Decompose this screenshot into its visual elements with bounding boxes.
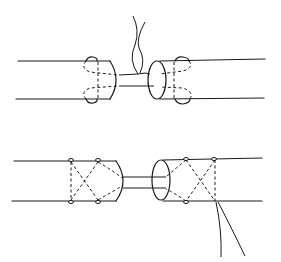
right-stitches-top	[160, 57, 191, 104]
left-stitches-bottom	[69, 159, 123, 204]
left-tube-top	[16, 61, 116, 99]
suture-diagram	[0, 0, 281, 262]
right-tube-top	[148, 59, 265, 99]
threads-bottom	[123, 177, 245, 257]
figure-bottom	[12, 158, 262, 258]
left-stitches-top	[84, 57, 118, 103]
figure-top	[16, 16, 265, 104]
right-tube-bottom	[152, 158, 262, 201]
right-stitches-bottom	[166, 158, 217, 204]
left-tube-bottom	[12, 161, 123, 201]
